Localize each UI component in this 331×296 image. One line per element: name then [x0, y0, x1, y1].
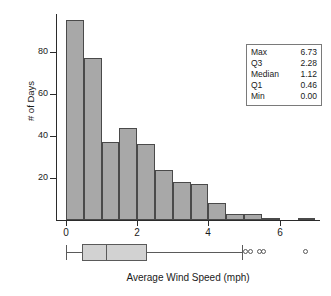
boxplot-outlier-point — [261, 249, 266, 254]
summary-statistics-value: 0.46 — [300, 80, 317, 91]
x-axis-tick — [208, 221, 209, 226]
x-axis-tick-label: 2 — [122, 227, 152, 238]
boxplot-lower-whisker — [66, 252, 82, 253]
summary-statistics-row: Min0.00 — [251, 91, 317, 102]
summary-statistics-value: 0.00 — [300, 91, 317, 102]
wind-speed-figure: 20406080 # of Days 0246 Average Wind Spe… — [0, 0, 331, 296]
histogram-bar — [84, 58, 102, 220]
summary-statistics-row: Q32.28 — [251, 58, 317, 69]
summary-statistics-label: Max — [251, 47, 267, 58]
histogram-bar — [208, 203, 226, 220]
histogram-bar — [155, 170, 173, 220]
boxplot-box — [82, 244, 147, 261]
boxplot-upper-whisker — [147, 252, 242, 253]
summary-statistics-label: Min — [251, 91, 265, 102]
histogram-bar — [262, 218, 280, 220]
histogram-bar — [226, 214, 244, 220]
y-axis-tick — [50, 178, 56, 179]
boxplot — [56, 240, 320, 266]
summary-statistics-row: Q10.46 — [251, 80, 317, 91]
y-axis-tick-label: 80 — [14, 47, 48, 56]
y-axis-tick — [50, 94, 56, 95]
summary-statistics-label: Q1 — [251, 80, 262, 91]
histogram-bar — [66, 20, 84, 220]
y-axis-title: # of Days — [26, 66, 36, 136]
boxplot-lower-cap — [66, 245, 67, 260]
histogram-bar — [137, 144, 155, 220]
histogram-bar — [102, 142, 120, 220]
y-axis-tick-label: 20 — [14, 173, 48, 182]
x-axis-tick-label: 4 — [193, 227, 223, 238]
summary-statistics-box: Max6.73Q32.28Median1.12Q10.46Min0.00 — [246, 44, 322, 106]
summary-statistics-label: Q3 — [251, 58, 262, 69]
boxplot-outlier-point — [248, 249, 253, 254]
boxplot-outlier-point — [303, 249, 308, 254]
summary-statistics-value: 6.73 — [300, 47, 317, 58]
histogram-bar — [298, 218, 316, 220]
boxplot-median-line — [106, 244, 107, 261]
summary-statistics-row: Max6.73 — [251, 47, 317, 58]
x-axis-tick — [280, 221, 281, 226]
summary-statistics-label: Median — [251, 69, 279, 80]
histogram-bar — [244, 214, 262, 220]
x-axis-tick — [66, 221, 67, 226]
x-axis-tick-label: 0 — [51, 227, 81, 238]
summary-statistics-value: 2.28 — [300, 58, 317, 69]
histogram-bar — [173, 182, 191, 220]
y-axis-tick — [50, 52, 56, 53]
x-axis-title: Average Wind Speed (mph) — [56, 272, 320, 283]
summary-statistics-row: Median1.12 — [251, 69, 317, 80]
histogram-bar — [191, 184, 209, 220]
y-axis-tick — [50, 136, 56, 137]
x-axis-tick — [137, 221, 138, 226]
x-axis-tick-label: 6 — [265, 227, 295, 238]
histogram-bar — [119, 128, 137, 220]
summary-statistics-value: 1.12 — [300, 69, 317, 80]
